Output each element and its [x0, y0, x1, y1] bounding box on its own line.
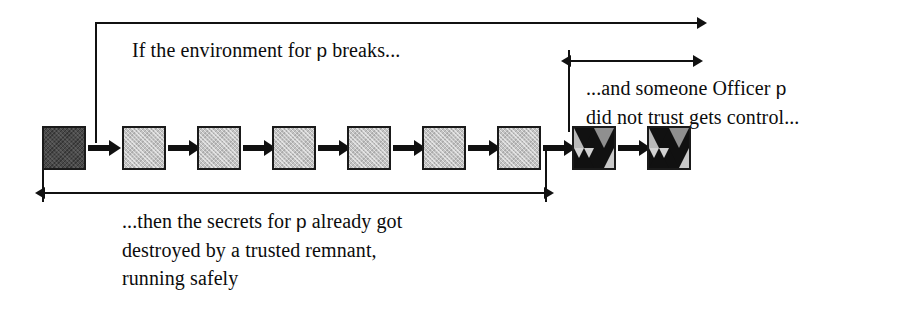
caption-environment-breaks-text-2: breaks...: [327, 39, 400, 61]
caption-someone-gets-control-line-2: did not trust gets control...: [586, 106, 799, 128]
connector-arrow-2: [168, 145, 190, 151]
node-trusted-remnant-6: [497, 126, 541, 170]
checker-cell: [669, 128, 689, 148]
checker-cell: [594, 128, 614, 148]
node-trusted-remnant-5: [422, 126, 466, 170]
caption-someone-gets-control-text-1: ...and someone Officer: [586, 77, 776, 99]
node-untrusted-control-2: [647, 126, 691, 170]
checker-cell: [574, 148, 594, 168]
checker-cell: [594, 148, 614, 168]
connector-arrow-1: [88, 145, 110, 151]
annotation-arrow-environment-breaks: [95, 22, 698, 24]
annotation-tick-left-top: [95, 22, 97, 143]
connector-arrow-8: [618, 145, 640, 151]
caption-environment-breaks-text-1: If the environment for: [132, 39, 316, 61]
caption-someone-gets-control-p: p: [776, 78, 787, 99]
caption-someone-gets-control: ...and someone Officer pdid not trust ge…: [586, 74, 799, 131]
node-trusted-remnant-4: [347, 126, 391, 170]
checker-cell: [649, 148, 669, 168]
annotation-arrow-secrets-destroyed: [44, 192, 545, 194]
caption-environment-breaks-p: p: [316, 40, 327, 61]
connector-arrow-4: [318, 145, 340, 151]
node-trusted-remnant-3: [272, 126, 316, 170]
caption-secrets-destroyed-p: p: [296, 211, 307, 232]
connector-arrow-3: [243, 145, 265, 151]
checker-cell: [649, 128, 669, 148]
caption-secrets-destroyed-text-1: ...then the secrets for: [122, 210, 296, 232]
protocol-failure-diagram: If the environment for p breaks... ...an…: [0, 0, 907, 311]
checker-cell: [669, 148, 689, 168]
annotation-arrow-someone-gets-control: [570, 60, 694, 62]
node-compromised-environment: [42, 126, 86, 170]
checker-cell: [574, 128, 594, 148]
caption-secrets-destroyed: ...then the secrets for p already gotdes…: [122, 207, 402, 292]
caption-secrets-destroyed-line-2: destroyed by a trusted remnant,: [122, 239, 377, 261]
connector-arrow-6: [468, 145, 490, 151]
caption-environment-breaks: If the environment for p breaks...: [132, 36, 400, 65]
node-trusted-remnant-1: [122, 126, 166, 170]
connector-arrow-5: [393, 145, 415, 151]
node-trusted-remnant-2: [197, 126, 241, 170]
node-untrusted-control-1: [572, 126, 616, 170]
caption-secrets-destroyed-line-3: running safely: [122, 267, 238, 289]
caption-secrets-destroyed-text-2: already got: [307, 210, 403, 232]
